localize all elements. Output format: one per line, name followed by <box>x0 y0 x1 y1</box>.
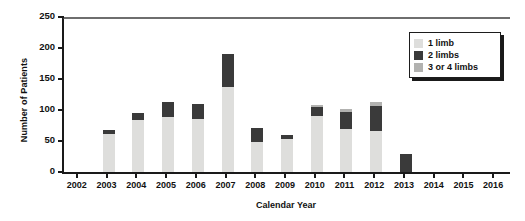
x-tick-mark <box>433 174 435 178</box>
x-tick-mark <box>165 174 167 178</box>
legend-swatch-icon <box>414 39 423 48</box>
bar-segment-2011-series3 <box>340 109 352 112</box>
bar-2012[interactable] <box>370 102 382 172</box>
bar-2008[interactable] <box>251 128 263 172</box>
legend-item-3[interactable]: 3 or 4 limbs <box>414 61 495 73</box>
y-tick-mark <box>58 78 64 80</box>
bar-2011[interactable] <box>340 109 352 172</box>
x-tick-label: 2005 <box>151 180 181 190</box>
x-tick-label: 2012 <box>359 180 389 190</box>
bar-segment-2003-series2 <box>103 130 115 134</box>
bar-2004[interactable] <box>132 113 144 172</box>
y-tick-mark <box>58 16 64 18</box>
bar-segment-2003-series1 <box>103 134 115 172</box>
x-axis-ticks: 2002200320042005200620072008200920102011… <box>62 174 510 198</box>
x-tick-label: 2008 <box>240 180 270 190</box>
y-tick-mark <box>58 109 64 111</box>
y-tick-mark <box>58 47 64 49</box>
bar-segment-2008-series2 <box>251 128 263 142</box>
y-tick-label: 0 <box>50 165 55 176</box>
x-tick-mark <box>76 174 78 178</box>
x-tick-label: 2009 <box>270 180 300 190</box>
x-tick-label: 2013 <box>389 180 419 190</box>
x-tick-label: 2004 <box>121 180 151 190</box>
x-tick-mark <box>195 174 197 178</box>
bar-segment-2006-series1 <box>192 119 204 172</box>
bar-segment-2007-series1 <box>222 87 234 172</box>
bar-segment-2005-series1 <box>162 117 174 172</box>
x-tick-label: 2011 <box>330 180 360 190</box>
bar-segment-2006-series2 <box>192 104 204 120</box>
x-tick-label: 2014 <box>419 180 449 190</box>
legend-item-label: 3 or 4 limbs <box>428 62 478 73</box>
bar-segment-2007-series2 <box>222 54 234 87</box>
x-tick-mark <box>492 174 494 178</box>
bar-segment-2011-series2 <box>340 112 352 129</box>
bar-segment-2010-series3 <box>311 105 323 107</box>
y-tick-label: 50 <box>44 134 55 145</box>
bar-2006[interactable] <box>192 104 204 172</box>
x-tick-label: 2010 <box>300 180 330 190</box>
x-tick-mark <box>314 174 316 178</box>
y-tick-label: 150 <box>39 72 55 83</box>
bar-segment-2012-series1 <box>370 131 382 172</box>
x-tick-mark <box>462 174 464 178</box>
legend-item-label: 2 limbs <box>428 50 459 61</box>
y-tick-label: 200 <box>39 41 55 52</box>
bar-segment-2012-series3 <box>370 102 382 106</box>
bar-2010[interactable] <box>311 105 323 172</box>
x-tick-mark <box>284 174 286 178</box>
y-tick-label: 100 <box>39 103 55 114</box>
y-tick-mark <box>58 171 64 173</box>
bar-segment-2012-series2 <box>370 106 382 131</box>
legend-item-1[interactable]: 1 limb <box>414 37 495 49</box>
x-tick-label: 2007 <box>211 180 241 190</box>
legend-swatch-icon <box>414 63 423 72</box>
bar-chart-figure: Number of Patients 050100150200250 20022… <box>0 0 525 221</box>
bar-2007[interactable] <box>222 54 234 172</box>
chart-legend: 1 limb2 limbs3 or 4 limbs <box>409 32 501 78</box>
bar-segment-2011-series1 <box>340 129 352 172</box>
x-tick-label: 2015 <box>449 180 479 190</box>
x-tick-mark <box>343 174 345 178</box>
legend-item-label: 1 limb <box>428 38 454 49</box>
x-tick-mark <box>106 174 108 178</box>
bar-segment-2010-series2 <box>311 107 323 116</box>
y-tick-mark <box>58 140 64 142</box>
x-axis-title: Calendar Year <box>62 200 510 210</box>
bar-segment-2005-series2 <box>162 102 174 118</box>
bar-segment-2004-series1 <box>132 120 144 172</box>
bar-segment-2009-series1 <box>281 139 293 172</box>
bar-segment-2004-series2 <box>132 113 144 120</box>
x-tick-label: 2016 <box>478 180 508 190</box>
y-tick-label: 250 <box>39 10 55 21</box>
bar-2009[interactable] <box>281 135 293 172</box>
bar-2003[interactable] <box>103 130 115 172</box>
x-tick-mark <box>135 174 137 178</box>
x-tick-mark <box>373 174 375 178</box>
x-tick-label: 2002 <box>62 180 92 190</box>
bar-2005[interactable] <box>162 102 174 172</box>
legend-item-2[interactable]: 2 limbs <box>414 49 495 61</box>
x-tick-label: 2006 <box>181 180 211 190</box>
bar-segment-2009-series2 <box>281 135 293 139</box>
legend-swatch-icon <box>414 51 423 60</box>
bar-segment-2008-series1 <box>251 142 263 172</box>
bar-segment-2013-series2 <box>400 154 412 172</box>
x-tick-mark <box>403 174 405 178</box>
x-tick-mark <box>225 174 227 178</box>
bar-2013[interactable] <box>400 154 412 172</box>
x-tick-label: 2003 <box>92 180 122 190</box>
x-tick-mark <box>254 174 256 178</box>
y-axis-title: Number of Patients <box>19 20 29 180</box>
bar-segment-2010-series1 <box>311 116 323 172</box>
